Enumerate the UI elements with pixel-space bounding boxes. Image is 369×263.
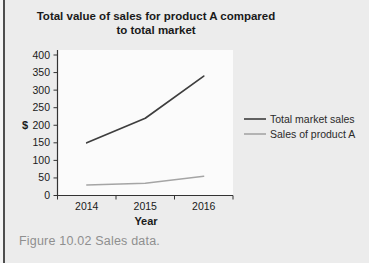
y-tick-label: 50 — [38, 171, 50, 183]
x-tick-label: 2016 — [192, 200, 216, 212]
y-tick-label: 100 — [32, 154, 50, 166]
y-tick-label: 200 — [32, 119, 50, 131]
y-tick-label: 350 — [32, 66, 50, 78]
figure-panel: Total value of sales for product A compa… — [0, 0, 369, 263]
y-tick-label: 250 — [32, 101, 50, 113]
x-axis-ticks: 201420152016 — [58, 196, 234, 213]
figure-caption: Figure 10.02 Sales data. — [19, 234, 160, 248]
sales-chart: 050100150200250300350400 201420152016 $ … — [0, 0, 369, 263]
x-tick-label: 2015 — [134, 200, 158, 212]
legend: Total market salesSales of product A — [244, 113, 355, 140]
y-tick-label: 150 — [32, 136, 50, 148]
y-tick-label: 300 — [32, 84, 50, 96]
y-axis-ticks: 050100150200250300350400 — [32, 49, 57, 202]
legend-label-0: Total market sales — [270, 113, 355, 125]
y-axis-title: $ — [22, 119, 28, 131]
legend-label-1: Sales of product A — [270, 128, 355, 140]
x-axis-title: Year — [134, 215, 158, 227]
y-tick-label: 0 — [44, 189, 50, 201]
x-tick-label: 2014 — [75, 200, 99, 212]
plot-background — [57, 50, 233, 196]
y-tick-label: 400 — [32, 49, 50, 61]
